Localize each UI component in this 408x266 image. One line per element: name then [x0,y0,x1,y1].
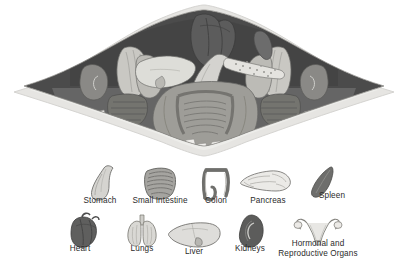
cavity-kidney-right [300,64,328,100]
legend-label-spleen: Spleen [319,191,345,200]
legend-label-heart: Heart [70,244,91,253]
anatomy-figure: Stomach Small Intestine [0,0,408,266]
legend-label-stomach: Stomach [83,196,116,205]
cavity-kidney-left [80,64,108,100]
legend-label-small-intestine: Small Intestine [132,196,188,205]
legend-label-kidneys: Kidneys [235,244,265,253]
legend-label-liver: Liver [185,247,203,256]
small-intestine-icon [145,168,176,199]
legend-label-colon: Colon [205,196,227,205]
legend-label-reproductive-organs-line1: Hormonal and [292,239,345,248]
legend-label-reproductive-organs-line2: Reproductive Organs [278,249,357,258]
legend-label-pancreas: Pancreas [250,196,285,205]
legend-label-lungs: Lungs [131,244,154,253]
